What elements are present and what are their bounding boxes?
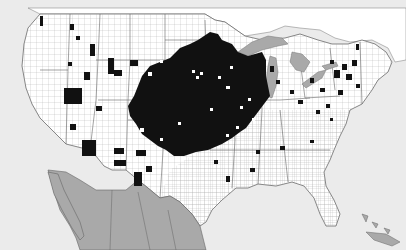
distribution-map (0, 0, 406, 250)
